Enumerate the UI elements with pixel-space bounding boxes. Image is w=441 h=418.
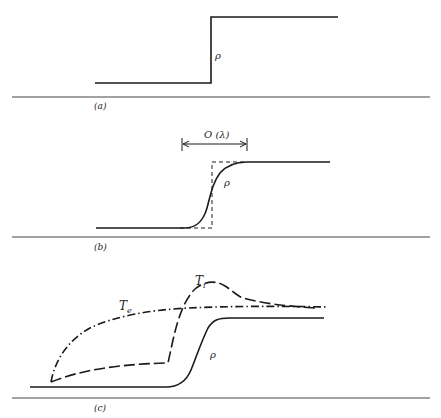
panel-b-dashed-step xyxy=(180,162,245,228)
order-lambda-label: O (λ) xyxy=(204,129,230,140)
shock-structure-diagram: ρ (a) O (λ) ρ (b) ρ Ti Te (c xyxy=(0,0,441,418)
panel-c-rho-label: ρ xyxy=(209,349,216,360)
panel-c-ion-temperature-curve xyxy=(51,282,315,382)
panel-c: ρ Ti Te (c) xyxy=(12,274,430,413)
ion-temperature-label: Ti xyxy=(195,274,206,290)
width-annotation: O (λ) xyxy=(182,129,247,151)
panel-a-caption: (a) xyxy=(94,101,107,111)
panel-b-caption: (b) xyxy=(94,242,107,252)
panel-c-density-curve xyxy=(30,318,324,387)
panel-c-caption: (c) xyxy=(94,403,107,413)
panel-b-density-curve xyxy=(96,162,330,228)
panel-b: O (λ) ρ (b) xyxy=(12,129,430,252)
panel-b-rho-label: ρ xyxy=(223,177,230,188)
panel-a: ρ (a) xyxy=(12,17,430,111)
electron-temperature-label: Te xyxy=(119,299,132,315)
panel-a-rho-label: ρ xyxy=(214,50,221,61)
